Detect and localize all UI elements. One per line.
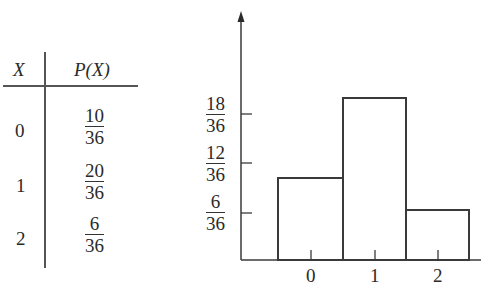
y-axis-arrow-icon <box>238 11 245 22</box>
y-tick-label: 12 36 <box>206 143 225 184</box>
x-tick-label: 0 <box>306 265 316 287</box>
y-tick-label: 6 36 <box>206 192 225 233</box>
x-tick-label: 1 <box>370 265 380 287</box>
bar-1 <box>343 98 406 260</box>
fraction-numerator: 18 <box>206 94 225 114</box>
fraction-denominator: 36 <box>206 213 225 233</box>
fraction-denominator: 36 <box>206 164 225 184</box>
fraction-denominator: 36 <box>206 115 225 135</box>
histogram-plot <box>0 0 481 297</box>
fraction-numerator: 12 <box>206 143 225 163</box>
fraction-numerator: 6 <box>211 192 221 212</box>
y-tick-label: 18 36 <box>206 94 225 135</box>
x-tick-label: 2 <box>433 265 443 287</box>
bar-0 <box>278 178 343 260</box>
